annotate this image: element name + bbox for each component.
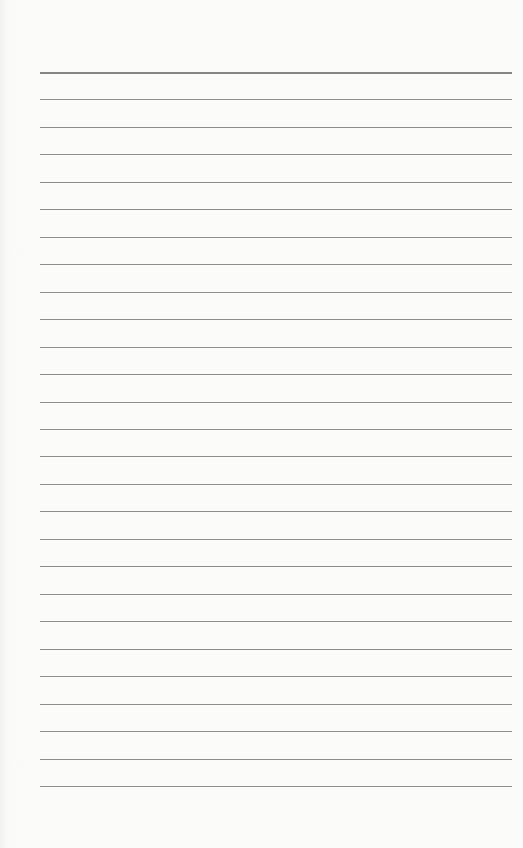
- ruled-line: [40, 456, 512, 457]
- ruled-line: [40, 786, 512, 787]
- ruled-line: [40, 566, 512, 567]
- ruled-line: [40, 731, 512, 732]
- ruled-line: [40, 319, 512, 320]
- ruled-line: [40, 594, 512, 595]
- ruled-line: [40, 182, 512, 183]
- ruled-line: [40, 154, 512, 155]
- ruled-line: [40, 72, 512, 74]
- lined-paper-page: [0, 0, 523, 848]
- ruled-line: [40, 484, 512, 485]
- ruled-line: [40, 292, 512, 293]
- ruled-line: [40, 374, 512, 375]
- ruled-line: [40, 99, 512, 100]
- ruled-line: [40, 209, 512, 210]
- ruled-line: [40, 676, 512, 677]
- ruled-line: [40, 429, 512, 430]
- ruled-line: [40, 621, 512, 622]
- ruled-line: [40, 704, 512, 705]
- ruled-line: [40, 511, 512, 512]
- ruled-line: [40, 649, 512, 650]
- ruled-line: [40, 759, 512, 760]
- ruled-line: [40, 237, 512, 238]
- ruled-line: [40, 402, 512, 403]
- ruled-line: [40, 347, 512, 348]
- ruled-line: [40, 127, 512, 128]
- ruled-line: [40, 539, 512, 540]
- ruled-line: [40, 264, 512, 265]
